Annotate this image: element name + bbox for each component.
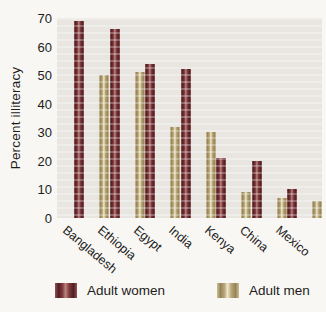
bar-adult-women-ethiopia	[110, 29, 120, 218]
x-axis-label-ethiopia: Ethiopia	[95, 223, 139, 263]
y-tick-label: 60	[18, 41, 52, 54]
bar-adult-men-ethiopia	[135, 72, 145, 218]
bar-adult-women-egypt	[145, 64, 155, 218]
bar-adult-men-egypt	[170, 127, 180, 218]
x-axis-label-china: China	[237, 223, 271, 255]
x-axis-label-egypt: Egypt	[131, 223, 164, 254]
x-axis-label-india: India	[166, 223, 196, 251]
legend-label-adult-men: Adult men	[249, 283, 310, 298]
bar-adult-women-bangladesh	[74, 21, 84, 218]
bar-adult-women-kenya	[216, 158, 226, 218]
y-tick-label: 0	[18, 212, 52, 225]
y-axis-tick-labels: 010203040506070	[18, 18, 52, 218]
legend-label-adult-women: Adult women	[87, 283, 165, 298]
y-tick-label: 40	[18, 98, 52, 111]
bar-adult-women-mexico	[287, 189, 297, 218]
x-axis-label-bangladesh: Bangladesh	[60, 223, 120, 276]
bar-adult-women-india	[181, 69, 191, 218]
bar-adult-men-mexico	[312, 201, 322, 218]
y-tick-label: 70	[18, 12, 52, 25]
y-tick-label: 10	[18, 183, 52, 196]
x-axis-label-kenya: Kenya	[202, 223, 238, 257]
bar-adult-women-china	[252, 161, 262, 218]
legend-swatch-adult-men	[217, 283, 239, 298]
y-tick-label: 50	[18, 69, 52, 82]
y-tick-label: 20	[18, 155, 52, 168]
legend-swatch-adult-women	[55, 283, 77, 298]
y-tick-label: 30	[18, 126, 52, 139]
legend: Adult women Adult men	[0, 278, 326, 302]
chart-figure: Percent illiteracy 010203040506070 Bangl…	[0, 0, 326, 312]
bar-adult-men-bangladesh	[99, 75, 109, 218]
x-axis-label-mexico: Mexico	[273, 223, 312, 259]
plot-area	[57, 18, 322, 218]
bar-adult-men-china	[277, 198, 287, 218]
bar-adult-men-india	[206, 132, 216, 218]
bar-adult-men-kenya	[241, 192, 251, 218]
